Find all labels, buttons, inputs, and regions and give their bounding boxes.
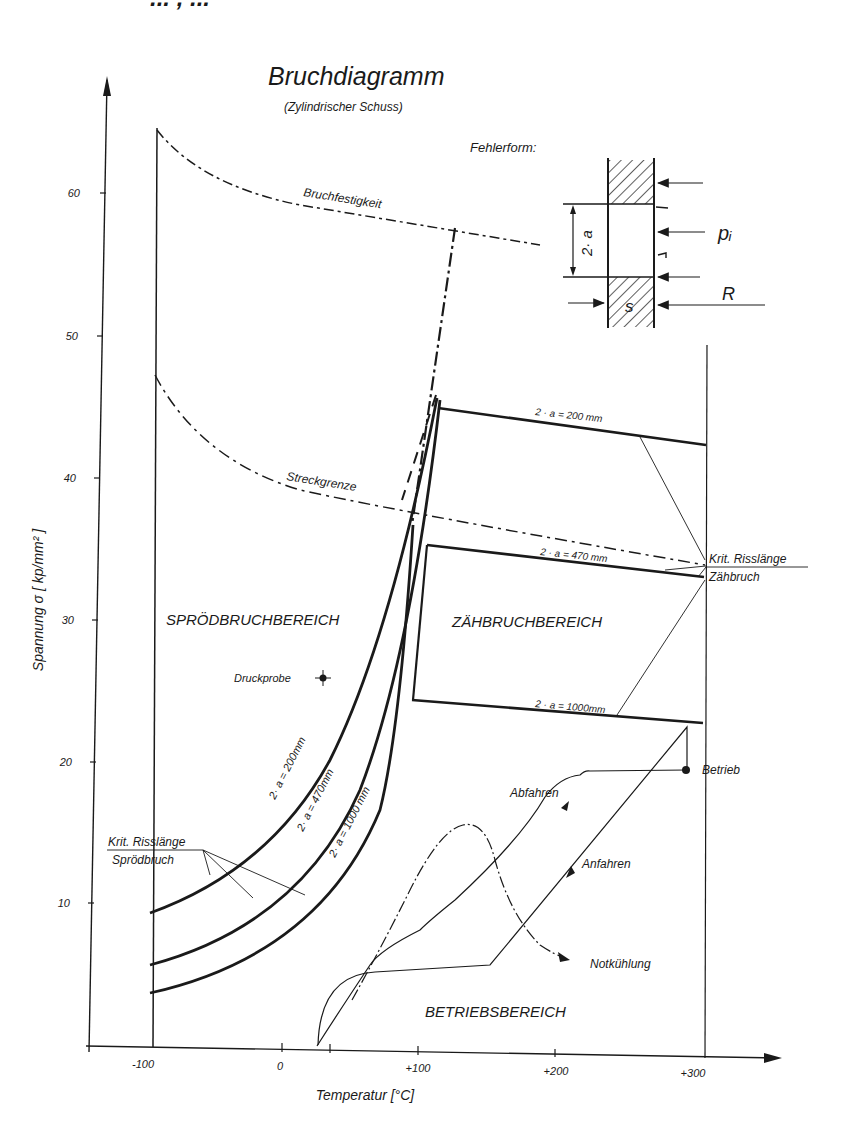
x-tick-300: +300 — [681, 1067, 707, 1079]
brittle-curve-1000mm — [150, 525, 413, 993]
inset-2a-label: 2· a — [578, 230, 595, 257]
abfahren-arrow-icon — [561, 801, 569, 811]
header-fragment: ... , ... — [150, 0, 210, 11]
brittle-curve-470mm — [150, 400, 440, 965]
x-tick-200: +200 — [544, 1065, 570, 1077]
y-tick-20: 20 — [59, 756, 73, 768]
sproedbruch-label: Sprödbruch — [112, 853, 174, 867]
inset-R-label: R — [722, 284, 735, 304]
inset-s-label: s — [625, 297, 634, 316]
betriebsbereich-label: BETRIEBSBEREICH — [425, 1003, 566, 1020]
ductile-200mm-label: 2 · a = 200 mm — [534, 406, 603, 424]
notkuehlung-label: Notkühlung — [590, 957, 651, 971]
druckprobe-marker — [315, 670, 331, 686]
zaehbruch-label: Zähbruch — [708, 570, 760, 584]
streckgrenze-label: Streckgrenze — [286, 469, 358, 494]
x-tick-0: 0 — [277, 1060, 284, 1072]
x-axis — [86, 1043, 782, 1063]
anfahren-label: Anfahren — [581, 857, 631, 871]
y-axis — [88, 76, 111, 1052]
brittle-470mm-label: 2· a = 470mm — [294, 767, 336, 834]
bruchfestigkeit-label: Bruchfestigkeit — [303, 185, 384, 211]
y-axis-label: Spannung σ [ kp/mm² ] — [30, 528, 46, 671]
x-tick-minus100: -100 — [132, 1058, 155, 1070]
zaehbruchbereich-label: ZÄHBRUCHBEREICH — [451, 613, 602, 630]
x-axis-label: Temperatur [°C] — [316, 1087, 416, 1103]
y-tick-40: 40 — [64, 472, 77, 484]
krit-risslaenge-left-label: Krit. Risslänge — [108, 835, 186, 849]
brittle-200mm-label: 2· a = 200mm — [266, 735, 308, 802]
betrieb-label: Betrieb — [702, 763, 740, 777]
y-tick-30: 30 — [62, 614, 75, 626]
inset-pi-label: pᵢ — [717, 222, 732, 244]
fracture-diagram: ... , ... 60 50 40 30 20 10 Spannung σ [… — [0, 0, 847, 1145]
y-tick-50: 50 — [66, 330, 79, 342]
brittle-1000mm-label: 2· a = 1000 mm — [326, 785, 372, 860]
x-tick-100: +100 — [406, 1062, 432, 1074]
right-boundary-line — [705, 345, 707, 1058]
y-tick-60: 60 — [68, 187, 81, 199]
chart-subtitle: (Zylindrischer Schuss) — [284, 100, 403, 114]
anfahren-curve — [318, 727, 687, 1045]
y-tick-10: 10 — [58, 897, 71, 909]
druckprobe-label: Druckprobe — [234, 672, 291, 684]
fehlerform-label: Fehlerform: — [470, 140, 537, 155]
chart-title: Bruchdiagramm — [268, 62, 444, 90]
betrieb-point — [682, 766, 690, 774]
notkuehlung-arrow-icon — [558, 952, 570, 962]
sproedbruchbereich-label: SPRÖDBRUCHBEREICH — [166, 611, 340, 628]
abfahren-label: Abfahren — [509, 786, 559, 800]
krit-risslaenge-right-label: Krit. Risslänge — [709, 552, 787, 566]
